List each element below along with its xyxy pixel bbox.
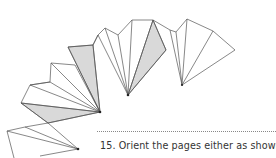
step-number: 15. — [100, 140, 116, 151]
dotted-divider — [97, 131, 276, 132]
instruction-step: 15. Orient the pages either as shown, — [100, 140, 276, 151]
fan-fold-diagram — [0, 0, 276, 158]
step-text: Orient the pages either as shown, — [119, 140, 276, 151]
